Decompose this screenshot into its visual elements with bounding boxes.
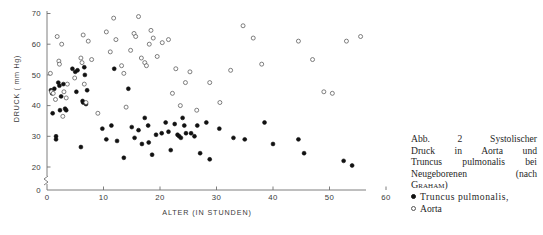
data-point-aorta: [359, 35, 363, 39]
caption-line-4: Neugeborenen (nach: [411, 168, 537, 180]
data-point-aorta: [86, 39, 90, 43]
svg-text:0: 0: [36, 186, 41, 195]
data-point-aorta: [53, 97, 57, 101]
data-point-truncus-pulmonalis: [59, 94, 63, 98]
svg-text:30: 30: [212, 193, 222, 202]
data-point-truncus-pulmonalis: [167, 130, 171, 134]
svg-text:60: 60: [381, 193, 391, 202]
data-point-aorta: [84, 101, 88, 105]
data-point-aorta: [241, 24, 245, 28]
data-point-truncus-pulmonalis: [204, 121, 208, 125]
data-point-aorta: [296, 39, 300, 43]
svg-text:70: 70: [32, 9, 42, 18]
data-point-aorta: [104, 30, 108, 34]
open-circle-icon: [411, 206, 416, 211]
data-point-truncus-pulmonalis: [160, 131, 164, 135]
svg-text:50: 50: [325, 193, 335, 202]
caption-author: Graham: [411, 179, 444, 190]
data-point-aorta: [170, 91, 174, 95]
data-point-truncus-pulmonalis: [115, 139, 119, 143]
data-point-aorta: [122, 71, 126, 75]
data-point-truncus-pulmonalis: [83, 73, 87, 77]
data-point-aorta: [108, 50, 112, 54]
data-point-aorta: [48, 71, 52, 75]
data-point-aorta: [73, 76, 77, 80]
data-point-truncus-pulmonalis: [79, 145, 83, 149]
data-point-aorta: [322, 90, 326, 94]
data-point-aorta: [82, 82, 86, 86]
data-point-truncus-pulmonalis: [104, 137, 108, 141]
data-point-truncus-pulmonalis: [263, 121, 267, 125]
data-point-truncus-pulmonalis: [61, 82, 65, 86]
data-point-truncus-pulmonalis: [57, 84, 61, 88]
data-point-truncus-pulmonalis: [243, 137, 247, 141]
data-point-truncus-pulmonalis: [217, 127, 221, 131]
legend-label-aorta: Aorta: [420, 203, 442, 215]
data-point-aorta: [344, 39, 348, 43]
data-point-aorta: [160, 41, 164, 45]
data-point-aorta: [183, 81, 187, 85]
data-point-aorta: [57, 62, 61, 66]
svg-text:40: 40: [268, 193, 278, 202]
data-point-truncus-pulmonalis: [64, 108, 68, 112]
legend-label-truncus-pulmonalis: Truncus pulmonalis,: [420, 191, 509, 203]
data-point-aorta: [139, 56, 143, 60]
data-point-aorta: [120, 64, 124, 68]
data-point-truncus-pulmonalis: [189, 131, 193, 135]
svg-text:20: 20: [32, 163, 42, 172]
data-point-truncus-pulmonalis: [130, 125, 134, 129]
figure-container: 02030405060700102030405060 DRUCK ( mm Hg…: [0, 0, 543, 235]
y-axis-title: DRUCK ( mm Hg): [12, 29, 21, 149]
data-point-truncus-pulmonalis: [169, 148, 173, 152]
data-point-aorta: [62, 90, 66, 94]
data-point-truncus-pulmonalis: [137, 128, 141, 132]
data-point-truncus-pulmonalis: [146, 124, 150, 128]
data-point-aorta: [60, 42, 64, 46]
data-point-aorta: [80, 61, 84, 65]
data-point-aorta: [178, 104, 182, 108]
data-point-aorta: [144, 64, 148, 68]
caption-line-3: Truncus pulmonalis bei: [411, 156, 537, 168]
data-point-aorta: [90, 58, 94, 62]
data-point-truncus-pulmonalis: [173, 122, 177, 126]
data-point-aorta: [114, 38, 118, 42]
legend-item-truncus-pulmonalis: Truncus pulmonalis,: [411, 191, 537, 203]
svg-text:50: 50: [32, 71, 42, 80]
data-point-aorta: [147, 42, 151, 46]
data-point-truncus-pulmonalis: [85, 88, 89, 92]
data-point-truncus-pulmonalis: [232, 136, 236, 140]
data-point-aorta: [218, 101, 222, 105]
data-point-truncus-pulmonalis: [195, 124, 199, 128]
data-point-truncus-pulmonalis: [302, 151, 306, 155]
data-point-truncus-pulmonalis: [296, 137, 300, 141]
data-point-aorta: [251, 36, 255, 40]
data-point-truncus-pulmonalis: [208, 157, 212, 161]
legend-item-aorta: Aorta: [411, 203, 537, 215]
data-point-aorta: [149, 28, 153, 32]
data-point-truncus-pulmonalis: [150, 153, 154, 157]
data-point-truncus-pulmonalis: [74, 90, 78, 94]
data-point-truncus-pulmonalis: [143, 116, 147, 120]
data-point-truncus-pulmonalis: [122, 156, 126, 160]
data-point-aorta: [81, 33, 85, 37]
data-point-aorta: [166, 38, 170, 42]
caption-line-5: Graham): [411, 179, 537, 191]
data-point-aorta: [330, 91, 334, 95]
caption-line-1: Abb. 2 Systolischer: [411, 133, 537, 145]
data-point-aorta: [311, 58, 315, 62]
data-point-aorta: [112, 16, 116, 20]
data-point-aorta: [195, 108, 199, 112]
data-point-aorta: [51, 91, 55, 95]
data-point-aorta: [64, 96, 68, 100]
svg-text:60: 60: [32, 40, 42, 49]
filled-circle-icon: [411, 194, 416, 199]
data-point-aorta: [208, 81, 212, 85]
data-point-truncus-pulmonalis: [147, 140, 151, 144]
svg-text:30: 30: [32, 132, 42, 141]
data-point-truncus-pulmonalis: [184, 131, 188, 135]
data-point-truncus-pulmonalis: [271, 142, 275, 146]
data-point-aorta: [96, 111, 100, 115]
data-point-truncus-pulmonalis: [51, 111, 55, 115]
data-point-truncus-pulmonalis: [350, 164, 354, 168]
data-point-truncus-pulmonalis: [198, 151, 202, 155]
